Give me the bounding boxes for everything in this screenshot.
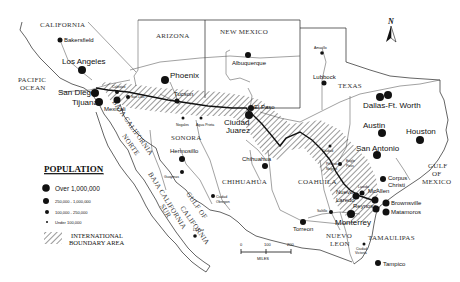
label-of: OF xyxy=(432,170,442,178)
svg-text:200: 200 xyxy=(287,242,294,247)
city-austin: Austin xyxy=(363,121,385,130)
label-coahuila: COAHUILA xyxy=(298,178,337,186)
city-negras: Negras xyxy=(326,167,338,171)
label-nuevo: NUEVO xyxy=(326,232,352,240)
legend-250k-1m: 250,000 - 1,000,000 xyxy=(55,199,92,204)
label-ocean: OCEAN xyxy=(20,84,46,92)
scale-bar: 0 100 200 MILES xyxy=(240,242,294,261)
city-la-paz: La Paz xyxy=(193,228,204,232)
city-dallas-ft-worth: Dallas-Ft. Worth xyxy=(363,101,421,110)
label-texas: TEXAS xyxy=(338,82,362,90)
city-brownsville: Brownsville xyxy=(391,200,422,206)
legend-international: INTERNATIONAL xyxy=(71,232,123,239)
us-mexico-border-map: CALIFORNIA ARIZONA NEW MEXICO TEXAS SONO… xyxy=(0,0,460,282)
label-leon: LEON xyxy=(330,240,350,248)
label-baja-sur: BAJA CALIFORNIA xyxy=(146,171,188,231)
label-gulf: GULF xyxy=(428,162,447,170)
city-monterrey: Monterrey xyxy=(335,218,371,227)
city-piedras-negras: Piedras xyxy=(326,162,338,166)
legend-under-100k: Under 100,000 xyxy=(55,220,82,225)
label-pacific: PACIFIC xyxy=(18,76,46,84)
city-tampico: Tampico xyxy=(383,261,406,267)
city-christi: Christi xyxy=(388,182,405,188)
legend-over-1m: Over 1,000,000 xyxy=(55,185,100,192)
legend: POPULATION Over 1,000,000 250,000 - 1,00… xyxy=(42,164,124,246)
city-phoenix: Phoenix xyxy=(170,71,199,80)
svg-text:0: 0 xyxy=(240,242,243,247)
city-tucson: Tucson xyxy=(174,91,193,97)
legend-boundary-area: BOUNDARY AREA xyxy=(69,239,125,246)
label-california: CALIFORNIA xyxy=(40,21,85,29)
north-arrow-icon: N xyxy=(386,17,396,42)
city-calexico: Calexico xyxy=(112,85,125,89)
city-los-angeles: Los Angeles xyxy=(62,57,106,66)
city-guaymas: Guaymas xyxy=(164,175,179,179)
city-mexicali: Mexicali xyxy=(104,106,126,112)
svg-text:100: 100 xyxy=(264,242,271,247)
city-reynosa: Reynosa xyxy=(353,203,377,209)
city-torreon: Torreon xyxy=(293,226,313,232)
city-albuquerque: Albuquerque xyxy=(232,60,267,66)
city-eagle-pass: Eagle xyxy=(346,159,355,163)
label-mexico: MEXICO xyxy=(422,178,451,186)
city-juarez: Juarez xyxy=(226,126,250,135)
city-pass: Pass xyxy=(346,164,354,168)
city-ciudad-acuna: Ciudad xyxy=(322,149,333,153)
city-lubbock: Lubbock xyxy=(313,74,337,80)
city-houston: Houston xyxy=(406,127,436,136)
label-chihuahua: CHIHUAHUA xyxy=(222,178,267,186)
city-hermosillo: Hermosillo xyxy=(170,148,199,154)
city-corpus-christi: Corpus xyxy=(388,175,407,181)
label-tamaulipas: TAMAULIPAS xyxy=(368,234,415,242)
city-chihuahua: Chihuahua xyxy=(242,156,272,162)
city-ciudad-obregon: Ciudad xyxy=(216,195,227,199)
city-nuevo-laredo: Nuevo xyxy=(336,189,354,195)
city-matamoros: Matamoros xyxy=(391,209,421,215)
city-bakersfield: Bakersfield xyxy=(64,37,94,43)
label-new-mexico: NEW MEXICO xyxy=(220,28,268,36)
city-agua-prieta: Agua Prieta xyxy=(196,123,214,127)
city-san-luis: San Luis xyxy=(131,95,145,99)
city-san-antonio: San Antonio xyxy=(356,144,400,153)
city-san-diego: San Diego xyxy=(58,88,96,97)
city-victoria: Victoria xyxy=(355,251,367,255)
label-sonora: SONORA xyxy=(171,134,202,142)
city-obregon: Obregon xyxy=(216,200,230,204)
svg-text:MILES: MILES xyxy=(257,256,269,261)
legend-100k-250k: 100,000 - 250,000 xyxy=(55,210,88,215)
city-el-paso: El Paso xyxy=(254,104,275,110)
label-arizona: ARIZONA xyxy=(156,32,190,40)
legend-title: POPULATION xyxy=(44,164,104,174)
city-mcallen: McAllen xyxy=(368,188,389,194)
city-tijuana: Tijuana xyxy=(72,98,98,107)
city-nogales: Nogales xyxy=(176,123,189,127)
svg-text:N: N xyxy=(387,17,395,26)
city-amarillo: Amarillo xyxy=(314,46,327,50)
legend-hatch-swatch xyxy=(44,232,62,244)
city-saltillo: Saltillo xyxy=(317,209,327,213)
